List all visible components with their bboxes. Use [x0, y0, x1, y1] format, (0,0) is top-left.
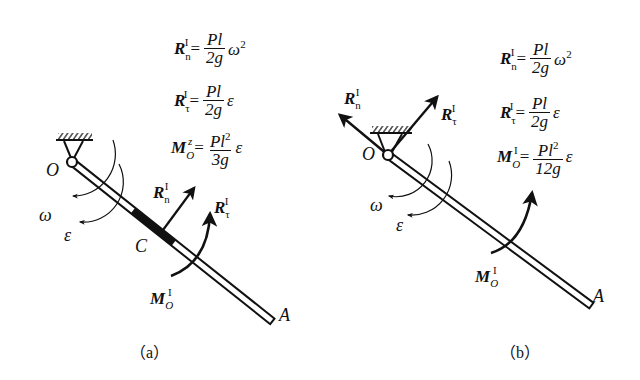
label-a-a: A [279, 305, 290, 326]
equation-a-rn: RnI = Pl2g ω2 [174, 31, 246, 67]
fixed-support-b [370, 126, 412, 152]
equation-b-rt: RτI = Pl2g ε [500, 95, 560, 131]
label-epsilon-a: ε [64, 225, 71, 246]
label-o-a: O [46, 160, 59, 181]
caption-b: （b） [500, 339, 540, 363]
label-c-a: C [135, 236, 147, 257]
label-omega-b: ω [370, 195, 383, 216]
equation-a-rt: RτI = Pl2g ε [174, 83, 234, 119]
label-rn-a: RnI [153, 183, 169, 203]
label-a-b: A [593, 286, 604, 307]
eq-lhs: RnI [174, 39, 189, 59]
label-mo-b: MOI [475, 267, 497, 287]
label-mo-a: MOI [150, 289, 172, 309]
label-rt-b: RτI [441, 105, 455, 125]
pivot-o-b [383, 150, 393, 160]
equation-a-mo: MOz = Pl23g ε [171, 128, 242, 169]
caption-a: （a） [130, 339, 169, 363]
label-omega-a: ω [39, 205, 52, 226]
label-rn-b: RnI [344, 89, 360, 109]
label-rt-a: RτI [214, 198, 228, 218]
equation-b-rn: RnI = Pl2g ω2 [500, 41, 572, 77]
equation-b-mo: MOI = Pl212g ε [497, 137, 573, 178]
pivot-o-a [67, 157, 77, 167]
fraction: Pl2g [204, 31, 225, 67]
label-o-b: O [362, 144, 375, 165]
fixed-support-a [56, 133, 93, 158]
label-epsilon-b: ε [396, 215, 403, 236]
